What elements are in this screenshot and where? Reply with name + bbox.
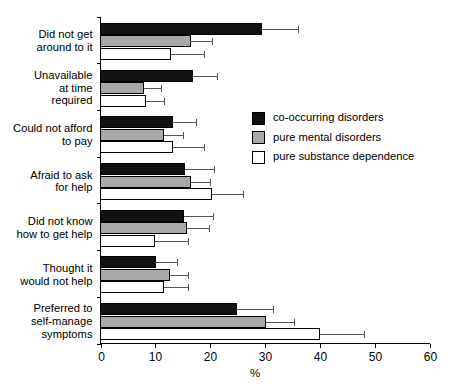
category-label-6-line-2: would not help [19, 275, 92, 287]
category-label-3-line-2: to pay [62, 135, 93, 147]
bar-5-1 [101, 211, 184, 222]
bars-layer [101, 24, 365, 340]
bar-3-1 [101, 117, 173, 128]
bar-1-2 [101, 36, 191, 47]
category-label-5-line-1: Did not know [28, 215, 94, 227]
bar-2-2 [101, 83, 144, 94]
legend-swatch-1 [252, 112, 264, 124]
category-label-5-line-2: how to get help [17, 228, 93, 240]
x-tick-label-6: 60 [424, 350, 438, 364]
bar-7-2 [101, 317, 266, 328]
x-tick-label-5: 50 [369, 350, 383, 364]
category-label-2-line-2: at time [59, 82, 93, 94]
bar-1-1 [101, 24, 262, 35]
bar-3-3 [101, 142, 173, 153]
x-tick-label-4: 40 [314, 350, 328, 364]
x-axis-title-text: % [250, 367, 260, 379]
category-label-4-line-2: for help [55, 181, 92, 193]
category-label-7-line-2: self-manage [31, 315, 93, 327]
bar-2-3 [101, 96, 146, 107]
legend-label-3: pure substance dependence [273, 150, 414, 162]
x-axis-title: % [250, 367, 260, 379]
chart-canvas: Did not getaround to itUnavailableat tim… [0, 0, 450, 391]
category-label-6-line-1: Thought it [43, 262, 94, 274]
bar-5-2 [101, 223, 187, 234]
bar-7-1 [101, 304, 237, 315]
x-tick-label-3: 30 [259, 350, 273, 364]
category-label-2-line-1: Unavailable [34, 69, 92, 81]
bar-7-3 [101, 329, 320, 340]
legend-label-1: co-occurring disorders [273, 111, 384, 123]
bar-2-1 [101, 71, 193, 82]
category-labels: Did not getaround to itUnavailableat tim… [13, 28, 93, 339]
category-label-7-line-1: Preferred to [33, 302, 92, 314]
legend-swatch-3 [252, 151, 264, 163]
category-label-1-line-1: Did not get [38, 28, 93, 40]
category-label-4-line-1: Afraid to ask [30, 169, 93, 181]
bar-4-2 [101, 177, 191, 188]
x-tick-labels: 0102030405060 [98, 350, 437, 364]
category-label-3-line-1: Could not afford [13, 122, 92, 134]
bar-4-1 [101, 164, 185, 175]
x-tick-label-0: 0 [98, 350, 105, 364]
bar-6-1 [101, 257, 156, 268]
category-label-1-line-2: around to it [37, 41, 94, 53]
bar-3-2 [101, 130, 164, 141]
x-tick-label-2: 20 [204, 350, 218, 364]
chart-legend: co-occurring disorderspure mental disord… [252, 111, 414, 163]
bar-6-2 [101, 270, 170, 281]
bar-1-3 [101, 49, 171, 60]
bar-6-3 [101, 282, 164, 293]
category-label-7-line-3: symptoms [42, 328, 93, 340]
bar-chart: Did not getaround to itUnavailableat tim… [0, 0, 450, 391]
legend-label-2: pure mental disorders [273, 131, 382, 143]
legend-swatch-2 [252, 132, 264, 144]
bar-4-3 [101, 189, 212, 200]
x-tick-label-1: 10 [149, 350, 163, 364]
category-label-2-line-3: required [51, 94, 92, 106]
bar-5-3 [101, 236, 155, 247]
